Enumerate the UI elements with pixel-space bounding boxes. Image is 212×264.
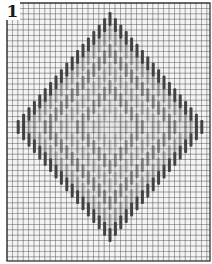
figure-number-label: 1 [5,2,20,20]
stitch-chart [0,0,212,264]
